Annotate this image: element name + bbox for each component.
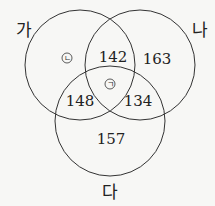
region-na-only: 163 xyxy=(143,50,172,68)
region-ga-da: 148 xyxy=(66,92,95,110)
region-na-da: 134 xyxy=(124,92,153,110)
set-ga-label: 가 xyxy=(16,20,32,40)
region-ga-only: ㄴ xyxy=(64,54,71,63)
set-na-label: 나 xyxy=(192,20,208,40)
region-ga-na-da: ㄱ xyxy=(107,80,114,89)
venn-diagram: 가 나 다 ㄴ 142 163 ㄱ 148 134 157 xyxy=(0,0,215,206)
set-da-label: 다 xyxy=(102,182,118,202)
region-da-only: 157 xyxy=(97,130,126,148)
region-ga-na: 142 xyxy=(99,48,128,66)
